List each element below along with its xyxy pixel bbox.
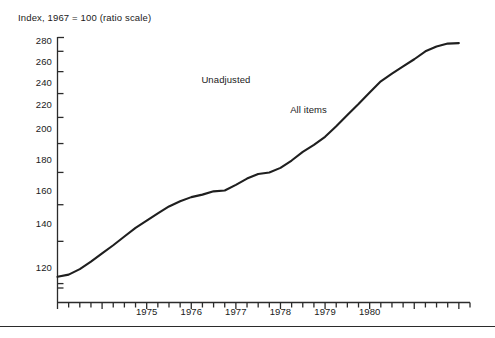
series-line-all-items (58, 43, 459, 277)
x-axis-ticks (58, 303, 471, 310)
chart-plot-area (0, 0, 495, 338)
chart-figure: Index, 1967 = 100 (ratio scale) 280 260 … (0, 0, 495, 338)
y-axis-ticks (58, 51, 64, 288)
bottom-rule (0, 326, 495, 327)
